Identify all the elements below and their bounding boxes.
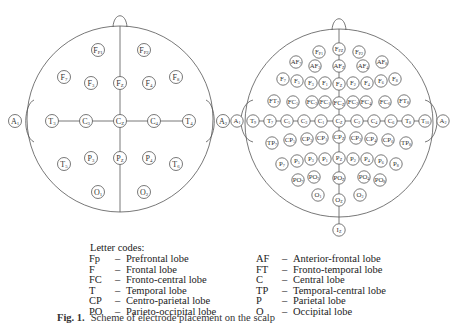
electrode-fp1: FP1	[92, 44, 105, 57]
electrode-po4: PO4	[358, 171, 370, 183]
legend-code: TP	[256, 285, 282, 296]
legend-meaning: Central lobe	[293, 274, 345, 285]
electrode-f2: F2	[347, 77, 359, 89]
electrode-ft8: FT8	[398, 95, 410, 107]
legend-meaning: Occipital lobe	[293, 306, 352, 317]
electrode-p4: P4	[143, 152, 156, 165]
electrode-p6: P6	[375, 155, 387, 167]
legend-code: CP	[89, 295, 115, 306]
electrode-af3: AF3	[309, 60, 321, 72]
legend-right-column: AF–Anterior-frontal lobe FT–Fronto-tempo…	[256, 253, 386, 317]
electrode-a1: A1	[9, 115, 22, 128]
electrode-o1: O1	[312, 189, 324, 201]
electrode-af4: AF4	[357, 60, 369, 72]
electrode-t7: T7	[264, 115, 276, 127]
electrode-f4: F4	[143, 77, 156, 90]
legend-row: FC–Fronto-central lobe	[89, 274, 216, 285]
legend-meaning: Temporal-central lobe	[293, 285, 386, 296]
legend-meaning: Fronto-temporal lobe	[293, 264, 383, 275]
electrode-t6: T6	[170, 158, 183, 171]
legend-dash: –	[115, 274, 126, 285]
electrode-p5: P5	[291, 155, 303, 167]
electrode-p1: P1	[319, 153, 331, 165]
electrode-cz: CZ	[333, 115, 345, 127]
legend-row: CP–Centro-parietal lobe	[89, 295, 216, 306]
electrode-cp3: CP3	[301, 133, 313, 145]
electrode-c1: C1	[315, 115, 327, 127]
legend-code: F	[89, 264, 115, 275]
electrode-cp4: CP4	[365, 133, 377, 145]
electrode-fp1: FP1	[313, 46, 325, 58]
legend-row: F–Frontal lobe	[89, 264, 216, 275]
electrode-fz: FZ	[114, 77, 127, 90]
electrode-fcz: FCZ	[333, 97, 345, 109]
left-nose	[113, 16, 127, 27]
electrode-p7: P7	[276, 158, 288, 170]
electrode-o1: O1	[92, 186, 105, 199]
electrode-cp6: CP6	[382, 134, 394, 146]
figure-number: Fig. 1.	[57, 312, 85, 323]
electrode-p8: P8	[390, 158, 402, 170]
electrode-fc3: FC3	[306, 96, 318, 108]
electrode-po3: PO3	[308, 171, 320, 183]
legend-row: AF–Anterior-frontal lobe	[256, 253, 386, 264]
electrode-fc4: FC4	[360, 96, 372, 108]
left-electrodes: FP1FP2F7F3FZF4F8A1T3C3CZC4T4A2T5P3PZP4T6…	[9, 44, 230, 199]
electrode-c2: C2	[351, 115, 363, 127]
electrode-c4: C4	[148, 115, 161, 128]
legend-meaning: Anterior-frontal lobe	[293, 253, 381, 264]
electrode-t10: T10	[419, 115, 431, 127]
electrode-tp8: TP8	[400, 137, 412, 149]
legend-row: FT–Fronto-temporal lobe	[256, 264, 386, 275]
electrode-c3: C3	[80, 115, 93, 128]
electrode-poz: POZ	[333, 172, 345, 184]
legend-row: P–Parietal lobe	[256, 295, 386, 306]
electrode-f3: F3	[305, 77, 317, 89]
electrode-cp1: CP1	[316, 132, 328, 144]
electrode-p3: P3	[85, 152, 98, 165]
electrode-fp2: FP2	[353, 46, 365, 58]
electrode-f3: F3	[85, 77, 98, 90]
electrode-o2: O2	[138, 186, 151, 199]
electrode-oz: OZ	[333, 194, 345, 206]
legend-meaning: Temporal lobe	[126, 285, 187, 296]
electrode-pz: PZ	[333, 152, 345, 164]
electrode-cz: CZ	[114, 115, 127, 128]
electrode-f6: F6	[375, 75, 387, 87]
legend-code: P	[256, 295, 282, 306]
eeg-electrode-diagram: FP1FP2F7F3FZF4F8A1T3C3CZC4T4A2T5P3PZP4T6…	[0, 0, 458, 240]
electrode-a1: A1	[231, 115, 243, 127]
legend-row: T–Temporal lobe	[89, 285, 216, 296]
electrode-fc6: FC6	[379, 96, 391, 108]
electrode-t4: T4	[183, 115, 196, 128]
electrode-t9: T9	[247, 115, 259, 127]
electrode-f1: F1	[319, 77, 331, 89]
electrode-fc2: FC2	[347, 96, 359, 108]
legend-dash: –	[115, 264, 126, 275]
electrode-c6: C6	[385, 115, 397, 127]
electrode-fc1: FC1	[319, 96, 331, 108]
electrode-tp7: TP7	[266, 137, 278, 149]
legend-dash: –	[115, 295, 126, 306]
legend-title: Letter codes:	[90, 242, 145, 253]
legend-meaning: Parietal lobe	[293, 295, 346, 306]
electrode-f7: F7	[58, 71, 71, 84]
electrode-p4: P4	[361, 153, 373, 165]
legend-row: TP–Temporal-central lobe	[256, 285, 386, 296]
electrode-f4: F4	[361, 77, 373, 89]
electrode-t3: T3	[46, 115, 59, 128]
legend-meaning: Fronto-central lobe	[126, 274, 207, 285]
electrode-po8: PO8	[374, 174, 386, 186]
legend-dash: –	[282, 285, 293, 296]
legend-code: Fp	[89, 253, 115, 264]
electrode-c5: C5	[281, 115, 293, 127]
legend-code: C	[256, 274, 282, 285]
figure-caption-text: Scheme of electrode placement on the sca…	[91, 312, 275, 323]
electrode-po7: PO7	[292, 174, 304, 186]
electrode-f5: F5	[291, 75, 303, 87]
electrode-fp2: FP2	[138, 44, 151, 57]
right-nose	[332, 19, 346, 30]
electrode-f8: F8	[389, 73, 401, 85]
legend-meaning: Frontal lobe	[126, 264, 177, 275]
electrode-a2: A2	[437, 115, 449, 127]
